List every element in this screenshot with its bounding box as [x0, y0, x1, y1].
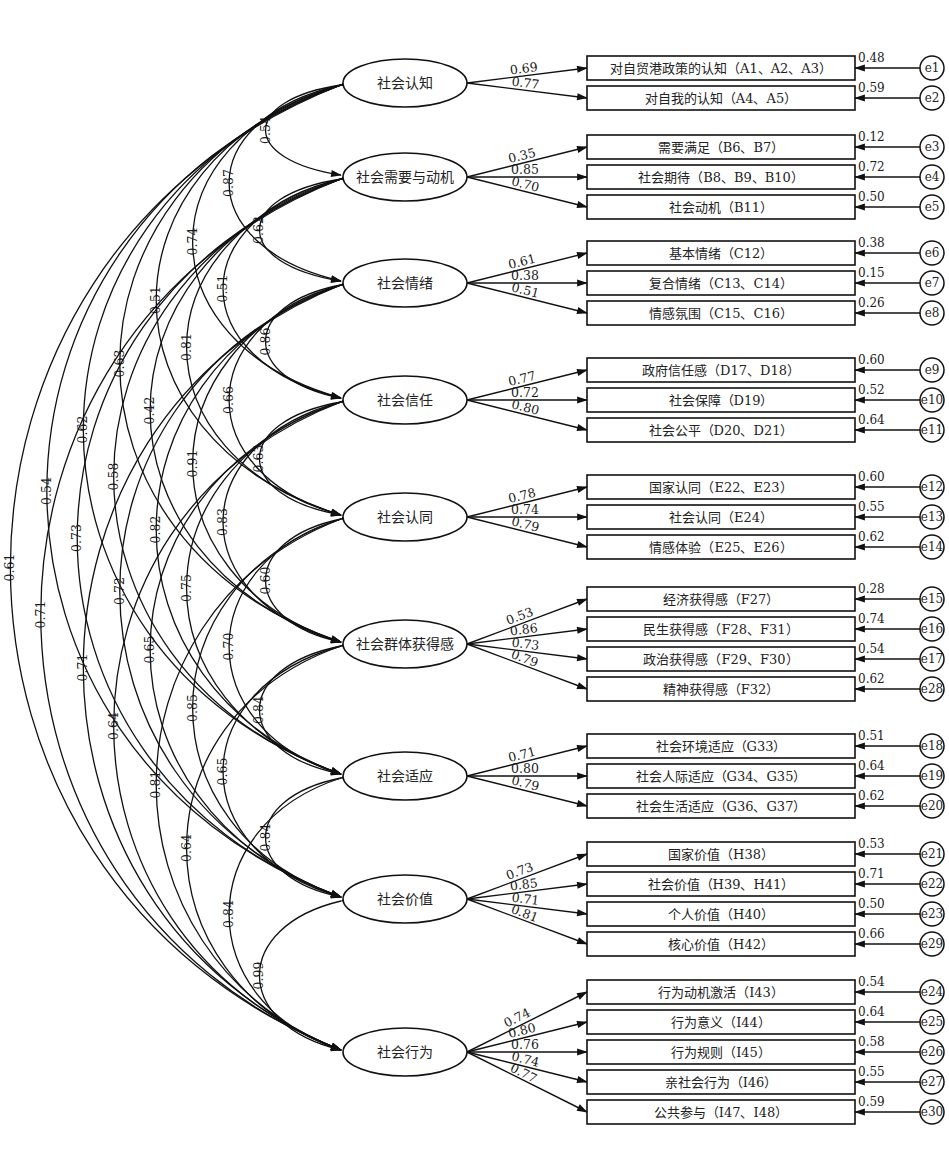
indicator-label: 社会公平（D20、D21） [649, 423, 794, 438]
indicator: 政治获得感（F29、F30）e170.54 [587, 642, 944, 671]
correlation-value: 0.84 [251, 696, 266, 724]
error-variance-value: 0.62 [858, 789, 885, 803]
correlation-arc [229, 519, 341, 774]
error-label: e23 [921, 907, 943, 921]
indicator-label: 经济获得感（F27） [663, 592, 780, 607]
latent-label: 社会价值 [377, 891, 433, 907]
indicator: 复合情绪（C13、C14）e70.15 [587, 266, 944, 295]
error-variance-value: 0.71 [858, 867, 885, 881]
indicator-label: 行为动机激活（I43） [658, 985, 784, 1000]
indicator: 社会价值（H39、H41）e220.71 [587, 867, 944, 896]
indicator: 社会公平（D20、D21）e110.64 [587, 413, 944, 442]
error-label: e14 [921, 540, 944, 554]
indicator-label: 社会生活适应（G36、G37） [636, 799, 807, 814]
indicator-label: 情感氛围（C15、C16） [649, 306, 793, 321]
correlation-value: 0.75 [179, 574, 194, 602]
indicator: 社会人际适应（G34、G35）e190.64 [587, 759, 944, 788]
error-label: e30 [921, 1105, 943, 1119]
indicator: 精神获得感（F32）e280.62 [587, 672, 944, 701]
correlation-arc [259, 901, 341, 1050]
correlation-value: 0.58 [106, 463, 121, 491]
correlation-value: 0.85 [185, 694, 200, 722]
correlation-value: 0.51 [215, 275, 230, 303]
indicator: 核心价值（H42）e290.66 [587, 927, 944, 956]
error-label: e18 [921, 739, 943, 753]
correlation-arc [229, 778, 341, 1050]
latent-factor: 社会认同 [343, 493, 467, 541]
error-variance-value: 0.66 [858, 927, 885, 941]
error-label: e16 [921, 622, 943, 636]
correlation-value: 0.61 [2, 554, 17, 582]
correlation-value: 0.64 [179, 834, 194, 862]
indicator-label: 社会人际适应（G34、G35） [636, 769, 807, 784]
indicator: 情感氛围（C15、C16）e80.26 [587, 296, 944, 325]
error-label: e27 [921, 1075, 943, 1089]
error-label: e11 [921, 423, 943, 437]
error-variance-value: 0.60 [858, 353, 885, 367]
correlation-value: 0.84 [258, 824, 273, 852]
error-variance-value: 0.72 [858, 160, 885, 174]
correlation-value: 0.86 [258, 328, 273, 356]
latent-factor: 社会行为 [343, 1028, 467, 1076]
indicator-label: 社会动机（B11） [669, 200, 773, 215]
correlation-value: 0.83 [215, 508, 230, 536]
error-variance-value: 0.54 [858, 642, 885, 656]
indicator-label: 行为意义（I44） [671, 1015, 771, 1030]
error-label: e8 [925, 306, 940, 320]
correlation-arc [266, 778, 341, 897]
error-variance-value: 0.53 [858, 837, 885, 851]
indicator: 行为动机激活（I43）e240.54 [587, 975, 944, 1004]
error-label: e20 [921, 799, 943, 813]
error-label: e21 [921, 847, 943, 861]
indicator-label: 社会保障（D19） [669, 393, 774, 408]
indicator: 行为意义（I44）e250.64 [587, 1005, 944, 1034]
indicator: 对自我的认知（A4、A5）e20.59 [587, 81, 944, 110]
indicator-label: 亲社会行为（I46） [665, 1075, 778, 1090]
indicator: 民生获得感（F28、F31）e160.74 [587, 612, 944, 641]
indicator: 社会保障（D19）e100.52 [587, 383, 944, 412]
indicator: 个人价值（H40）e230.50 [587, 897, 944, 926]
correlation-value: 0.91 [185, 450, 200, 478]
latent-label: 社会信任 [377, 392, 433, 408]
error-variance-value: 0.55 [858, 1065, 885, 1079]
indicator-label: 个人价值（H40） [668, 907, 774, 922]
correlation-value: 0.65 [142, 636, 157, 664]
correlation-value: 0.71 [75, 654, 90, 682]
error-label: e28 [921, 682, 943, 696]
error-variance-value: 0.28 [858, 582, 885, 596]
correlation-value: 0.72 [112, 577, 127, 605]
indicator-label: 社会环境适应（G33） [656, 739, 787, 754]
indicator-label: 社会认同（E24） [669, 510, 773, 525]
correlation-value: 0.81 [179, 333, 194, 361]
latent-factor: 社会群体获得感 [343, 620, 467, 668]
error-label: e6 [925, 246, 940, 260]
error-label: e12 [921, 480, 943, 494]
error-variance-value: 0.58 [858, 1035, 885, 1049]
indicator-label: 需要满足（B6、B7） [658, 140, 785, 155]
correlation-value: 0.54 [39, 477, 54, 505]
error-variance-value: 0.74 [858, 612, 885, 626]
indicator-label: 对自我的认知（A4、A5） [645, 91, 797, 106]
error-variance-value: 0.64 [858, 759, 885, 773]
error-variance-value: 0.15 [858, 266, 885, 280]
indicator: 基本情绪（C12）e60.38 [587, 236, 944, 265]
correlation-value: 0.65 [215, 758, 230, 786]
indicator-label: 政府信任感（D17、D18） [642, 363, 800, 378]
error-variance-value: 0.62 [858, 530, 885, 544]
error-label: e5 [925, 200, 940, 214]
error-variance-value: 0.59 [858, 1095, 885, 1109]
indicator: 社会期待（B8、B9、B10）e40.72 [587, 160, 944, 189]
error-label: e25 [921, 1015, 943, 1029]
indicator-label: 情感体验（E25、E26） [649, 540, 792, 555]
correlation-arcs: 0.540.620.860.630.600.840.840.990.870.51… [2, 85, 341, 1050]
indicator-label: 国家认同（E22、E23） [649, 480, 792, 495]
latent-label: 社会认知 [377, 75, 433, 91]
error-variance-value: 0.59 [858, 81, 885, 95]
latent-factor: 社会信任 [343, 376, 467, 424]
error-label: e17 [921, 652, 943, 666]
indicator: 政府信任感（D17、D18）e90.60 [587, 353, 944, 382]
latent-label: 社会行为 [377, 1044, 433, 1060]
error-label: e26 [921, 1045, 943, 1059]
error-label: e1 [925, 61, 940, 75]
correlation-arc [10, 85, 341, 1050]
